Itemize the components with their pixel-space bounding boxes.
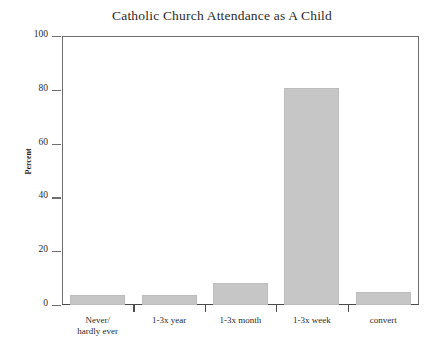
x-axis-tick-label-line: hardly ever bbox=[62, 326, 133, 337]
bar bbox=[284, 88, 339, 305]
y-axis-tick-label: 80 bbox=[0, 83, 48, 93]
x-axis-tick-label: 1-3x week bbox=[276, 315, 347, 326]
y-axis-tick-mark bbox=[52, 197, 61, 198]
x-axis-tick-label: convert bbox=[348, 315, 419, 326]
chart-container: Catholic Church Attendance as A Child Pe… bbox=[0, 0, 444, 353]
x-axis-tick-mark bbox=[276, 305, 277, 312]
y-axis-tick-label: 100 bbox=[0, 29, 48, 39]
bar bbox=[70, 295, 125, 305]
x-axis-tick-label-line: convert bbox=[348, 315, 419, 326]
x-axis-tick-label: 1-3x month bbox=[205, 315, 276, 326]
y-axis-tick-mark bbox=[52, 144, 61, 145]
bar bbox=[356, 292, 411, 305]
y-axis-tick-mark bbox=[52, 251, 61, 252]
bar bbox=[142, 295, 197, 305]
y-axis-tick-label: 0 bbox=[0, 298, 48, 308]
y-axis-label: Percent bbox=[24, 161, 33, 175]
x-axis-tick-label-line: 1-3x month bbox=[205, 315, 276, 326]
y-axis-tick-label: 40 bbox=[0, 190, 48, 200]
chart-title: Catholic Church Attendance as A Child bbox=[0, 8, 444, 24]
x-axis-tick-mark bbox=[133, 305, 134, 312]
bar bbox=[213, 283, 268, 305]
x-axis-tick-mark bbox=[348, 305, 349, 312]
x-axis-tick-mark bbox=[205, 305, 206, 312]
x-axis-tick-label-line: Never/ bbox=[62, 315, 133, 326]
plot-area bbox=[62, 36, 419, 305]
x-axis-tick-label-line: 1-3x week bbox=[276, 315, 347, 326]
x-axis-tick-label-line: 1-3x year bbox=[133, 315, 204, 326]
y-axis-tick-label: 20 bbox=[0, 244, 48, 254]
y-axis-tick-mark bbox=[52, 36, 61, 37]
x-axis-tick-label: Never/hardly ever bbox=[62, 315, 133, 337]
y-axis-tick-mark bbox=[52, 90, 61, 91]
y-axis-tick-mark bbox=[52, 305, 61, 306]
x-axis-tick-label: 1-3x year bbox=[133, 315, 204, 326]
y-axis-tick-label: 60 bbox=[0, 137, 48, 147]
